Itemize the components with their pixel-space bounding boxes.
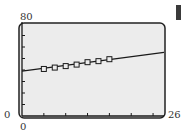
data-point-marker xyxy=(74,62,79,67)
scatter-plot xyxy=(0,0,186,136)
data-point-marker xyxy=(63,64,68,69)
data-point-marker xyxy=(96,59,101,64)
data-point-marker xyxy=(85,60,90,65)
data-point-marker xyxy=(52,65,57,70)
data-point-marker xyxy=(107,57,112,62)
data-point-marker xyxy=(41,66,46,71)
